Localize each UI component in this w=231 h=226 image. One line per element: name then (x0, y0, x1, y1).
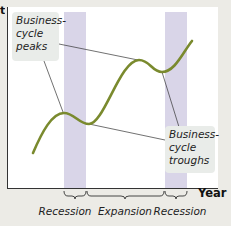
brace-recession-1 (64, 191, 86, 199)
phase-label-expansion: Expansion (95, 205, 155, 217)
troughs-callout-line-1: Business- (169, 128, 211, 141)
peak-connector-1 (44, 61, 63, 112)
peaks-callout-line-2: cycle (16, 27, 55, 40)
troughs-callout-line-3: troughs (169, 154, 211, 167)
trough-connector-1 (89, 124, 165, 140)
troughs-callout: Business- cycle troughs (165, 126, 215, 173)
peaks-callout: Business- cycle peaks (12, 12, 59, 61)
phase-label-recession-2: Recession (150, 205, 210, 217)
brace-recession-2 (165, 191, 187, 199)
phase-label-recession-1: Recession (35, 205, 95, 217)
peaks-callout-line-1: Business- (16, 14, 55, 27)
peaks-callout-line-3: peaks (16, 40, 55, 53)
recession-band-1 (64, 12, 86, 189)
troughs-callout-line-2: cycle (169, 141, 211, 154)
brace-expansion (87, 191, 164, 199)
x-axis-label: Year (198, 186, 227, 200)
